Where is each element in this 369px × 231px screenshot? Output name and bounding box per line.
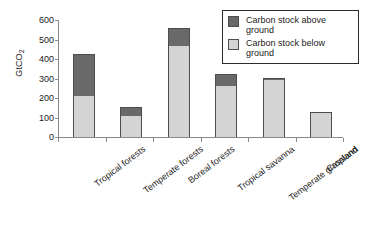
bar-group[interactable] — [120, 107, 142, 137]
y-axis-tick-label: 600 — [28, 15, 54, 25]
bar-chart: GtCO2 0100200300400500600 Tropical fores… — [0, 0, 369, 231]
y-axis-title-subscript: 2 — [18, 49, 25, 53]
y-axis-tick-labels: 0100200300400500600 — [28, 14, 54, 138]
bar-segment-below-ground[interactable] — [168, 46, 190, 137]
y-axis-tick-label: 300 — [28, 74, 54, 84]
y-axis-title: GtCO2 — [14, 37, 24, 89]
legend-label: Carbon stock below ground — [246, 38, 350, 58]
legend-swatch-above-ground — [228, 16, 239, 27]
bar-group[interactable] — [73, 54, 95, 137]
bar-segment-below-ground[interactable] — [310, 112, 332, 137]
legend-item[interactable]: Carbon stock below ground — [228, 38, 353, 58]
bar-group[interactable] — [263, 78, 285, 137]
bar-segment-below-ground[interactable] — [120, 116, 142, 137]
y-axis-tick-label: 200 — [28, 93, 54, 103]
x-axis-category-label: Tropical forests — [92, 144, 147, 189]
bar-segment-below-ground[interactable] — [263, 80, 285, 137]
bar-segment-below-ground[interactable] — [215, 86, 237, 137]
y-axis-title-text: GtCO — [14, 53, 24, 76]
x-axis-category-label: Tropical savanna — [236, 144, 296, 193]
bar-group[interactable] — [168, 28, 190, 137]
legend-label: Carbon stock above ground — [246, 15, 350, 35]
x-axis-category-labels: Tropical forestsTemperate forestsBoreal … — [0, 141, 369, 231]
x-axis-category-label: Cropland — [325, 144, 360, 174]
legend-item[interactable]: Carbon stock above ground — [228, 15, 353, 35]
y-axis-tick-label: 100 — [28, 113, 54, 123]
bar-segment-below-ground[interactable] — [73, 96, 95, 137]
y-axis-tick-label: 400 — [28, 54, 54, 64]
bar-segment-above-ground[interactable] — [215, 74, 237, 86]
bar-group[interactable] — [310, 112, 332, 137]
bar-segment-above-ground[interactable] — [168, 28, 190, 46]
y-axis-tick-label: 500 — [28, 35, 54, 45]
bar-segment-above-ground[interactable] — [120, 107, 142, 115]
bar-group[interactable] — [215, 74, 237, 137]
chart-legend: Carbon stock above groundCarbon stock be… — [222, 10, 359, 64]
legend-swatch-below-ground — [228, 39, 239, 50]
bar-segment-above-ground[interactable] — [73, 54, 95, 96]
